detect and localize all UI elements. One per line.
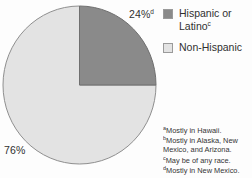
footnote-text-c: May be of any race. [166,156,231,165]
legend-footnote-marker-hispanic-latino: c [208,19,211,26]
pie-label-hispanic-value: 24% [129,8,150,20]
legend-label-hispanic-latino-text: Hispanic or Latino [179,7,232,32]
pie-chart-figure: 24%d 76% Hispanic or Latinoc Non-Hispani… [0,0,252,178]
footnote-text-a: Mostly in Hawaii. [166,126,221,135]
pie-label-non-hispanic: 76% [4,144,25,156]
legend-item-non-hispanic[interactable]: Non-Hispanic [163,41,252,54]
footnote-text-d: Mostly in New Mexico. [166,166,240,175]
legend-item-hispanic-latino[interactable]: Hispanic or Latinoc [163,7,252,32]
footnotes-block: aMostly in Hawaii. bMostly in Alaska, Ne… [163,126,252,178]
legend-swatch-icon-non-hispanic [163,43,173,53]
legend-swatch-icon-hispanic-latino [163,9,173,19]
footnote-b: bMostly in Alaska, New Mexico, and Arizo… [163,136,252,154]
pie-chart-svg [2,4,157,166]
footnote-c: cMay be of any race. [163,156,252,165]
pie-label-non-hispanic-value: 76% [4,144,25,156]
pie-label-hispanic-footnote-marker: d [150,8,154,15]
footnote-d: dMostly in New Mexico. [163,166,252,175]
pie-chart [2,4,157,166]
footnote-a: aMostly in Hawaii. [163,126,252,135]
footnote-text-b: Mostly in Alaska, New Mexico, and Arizon… [163,136,238,154]
pie-label-hispanic-latino: 24%d [129,8,154,20]
legend-label-non-hispanic-text: Non-Hispanic [179,41,242,53]
legend-label-hispanic-latino: Hispanic or Latinoc [179,7,252,32]
legend-label-non-hispanic: Non-Hispanic [179,41,242,54]
legend: Hispanic or Latinoc Non-Hispanic [163,7,252,63]
